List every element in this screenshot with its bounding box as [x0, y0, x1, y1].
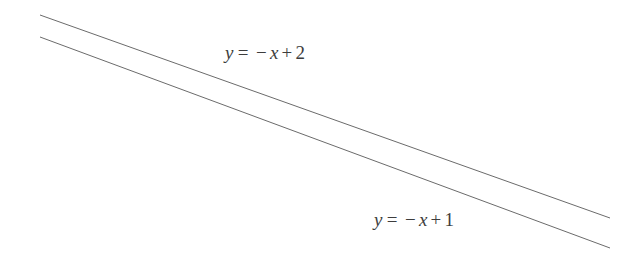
- equation-plus-lower: +: [428, 209, 445, 230]
- equation-plus-upper: +: [279, 42, 296, 63]
- equation-constant-lower: 1: [445, 209, 455, 230]
- equation-minus-upper: −: [253, 42, 270, 63]
- figure-background: [0, 0, 643, 263]
- equation-label-upper: y=−x+2: [225, 43, 305, 62]
- equation-label-lower: y=−x+1: [374, 210, 454, 229]
- equation-lhs-lower: y: [374, 209, 383, 230]
- equation-variable-upper: x: [270, 42, 279, 63]
- equation-constant-upper: 2: [296, 42, 306, 63]
- equation-lhs-upper: y: [225, 42, 234, 63]
- equation-minus-lower: −: [402, 209, 419, 230]
- equation-relation-lower: =: [383, 209, 402, 230]
- line-graph-canvas: [0, 0, 643, 263]
- equation-variable-lower: x: [419, 209, 428, 230]
- equation-relation-upper: =: [234, 42, 253, 63]
- figure-container: y=−x+2 y=−x+1: [0, 0, 643, 263]
